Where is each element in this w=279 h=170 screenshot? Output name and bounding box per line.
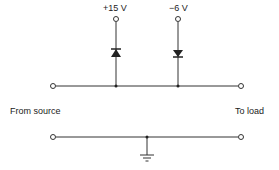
circuit-schematic	[0, 0, 279, 170]
output-bottom-terminal	[239, 135, 244, 140]
negative-supply-label: −6 V	[169, 3, 188, 13]
output-top-terminal	[239, 84, 244, 89]
junction-dot	[177, 85, 180, 88]
negative-supply-terminal	[176, 17, 181, 22]
diode-negative-icon	[173, 50, 183, 57]
diode-positive-icon	[111, 49, 121, 57]
positive-supply-terminal	[114, 17, 119, 22]
input-label: From source	[10, 106, 61, 116]
junction-dot	[146, 136, 149, 139]
output-label: To load	[235, 106, 264, 116]
junction-dot	[115, 85, 118, 88]
circuit-diagram: +15 V −6 V From source To load	[0, 0, 279, 170]
input-bottom-terminal	[51, 135, 56, 140]
input-top-terminal	[51, 84, 56, 89]
positive-supply-label: +15 V	[103, 3, 127, 13]
